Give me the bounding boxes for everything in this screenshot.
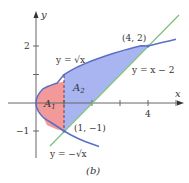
y-axis-arrow-icon bbox=[34, 11, 39, 18]
y-tick-label-2: 2 bbox=[24, 41, 30, 51]
x-axis-arrow-icon bbox=[177, 101, 184, 106]
label-lower-curve: y = −√x bbox=[49, 149, 87, 159]
y-axis-label: y bbox=[40, 9, 47, 20]
point-1-neg1 bbox=[63, 130, 66, 133]
y-tick-label-neg1: −1 bbox=[16, 126, 29, 136]
area-between-curves-diagram: y x 4 2 −1 y = √x y = x − 2 y = −√x (4, … bbox=[0, 0, 189, 183]
label-point-4-2: (4, 2) bbox=[122, 33, 146, 43]
x-axis-label: x bbox=[175, 88, 181, 99]
label-upper-curve: y = √x bbox=[55, 55, 85, 65]
x-tick-label-4: 4 bbox=[145, 109, 151, 119]
figure-caption: (b) bbox=[86, 165, 100, 176]
label-line: y = x − 2 bbox=[131, 65, 174, 75]
label-point-1-neg1: (1, −1) bbox=[74, 123, 106, 133]
point-4-2 bbox=[147, 45, 150, 48]
